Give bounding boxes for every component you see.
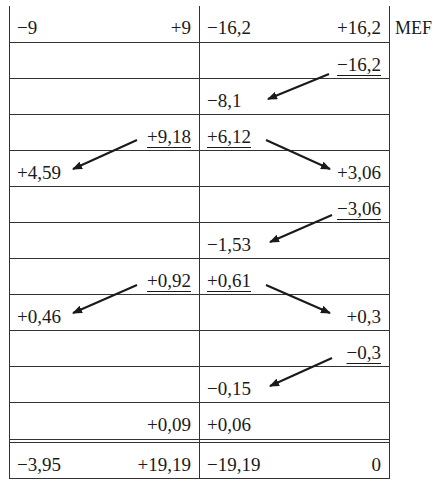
table-row: −3,06 — [9, 187, 389, 223]
cell-value: −3,95 — [17, 455, 61, 475]
mef-label: MEF — [395, 18, 432, 38]
cell-value: +16,2 — [337, 18, 381, 38]
cell-value: −16,2 — [337, 55, 381, 75]
table-row: −16,2 — [9, 43, 389, 79]
cell-value: 0 — [372, 455, 382, 475]
cell-value: +3,06 — [337, 163, 381, 183]
totals-row: −3,95+19,19 −19,190 — [9, 443, 389, 479]
cell-value: −1,53 — [207, 235, 251, 255]
cell-value: +9,18 — [147, 127, 191, 147]
cell-value: +19,19 — [138, 455, 191, 475]
cell-value: −3,06 — [337, 199, 381, 219]
table-row: −0,15 — [9, 367, 389, 403]
table-row: +0,46 +0,3 — [9, 295, 389, 331]
table-row: +0,09 +0,06 — [9, 403, 389, 443]
right-border — [389, 6, 390, 479]
cell-value: +4,59 — [17, 163, 61, 183]
cell-value: +0,61 — [207, 271, 251, 291]
table-row: −8,1 — [9, 79, 389, 115]
cell-value: −19,19 — [207, 455, 260, 475]
cell-value: +6,12 — [207, 127, 251, 147]
table-row: −1,53 — [9, 223, 389, 259]
table-row: +0,92 +0,61 — [9, 259, 389, 295]
cell-value: +9 — [171, 18, 191, 38]
cell-value: −0,15 — [207, 379, 251, 399]
cell-value: −16,2 — [207, 18, 251, 38]
moment-distribution-table: −9+9 −16,2+16,2 −16,2 −8,1 +9,18 +6,12 +… — [9, 6, 389, 479]
cell-value: +0,06 — [207, 415, 251, 435]
cell-value: −9 — [17, 18, 37, 38]
cell-value: +0,3 — [347, 307, 381, 327]
cell-value: +0,46 — [17, 307, 61, 327]
table-row: −0,3 — [9, 331, 389, 367]
cell-value: +0,09 — [147, 415, 191, 435]
table-row: +4,59 +3,06 — [9, 151, 389, 187]
cell-value: +0,92 — [147, 271, 191, 291]
cell-value: −8,1 — [207, 91, 241, 111]
cell-value: −0,3 — [347, 343, 381, 363]
table-row: +9,18 +6,12 — [9, 115, 389, 151]
table-row: −9+9 −16,2+16,2 — [9, 6, 389, 43]
